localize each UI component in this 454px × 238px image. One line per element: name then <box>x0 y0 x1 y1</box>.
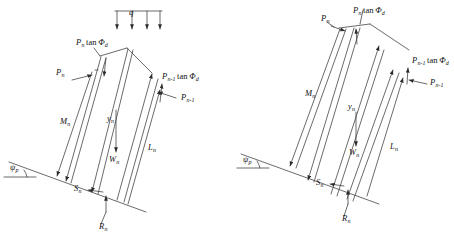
label-yn: yn <box>107 114 114 123</box>
slope-angle-arc <box>24 170 27 177</box>
force-line-7 <box>124 79 158 202</box>
label-Mn: Mn <box>305 89 315 98</box>
force-line-3 <box>71 58 106 183</box>
label-Mn: Mn <box>60 117 70 126</box>
label-Sn: Sn <box>316 178 323 187</box>
label-Pn-1: Pn-1 <box>181 93 194 102</box>
force-line-2 <box>296 29 346 168</box>
slip-surface-line <box>241 154 379 204</box>
force-line-8 <box>353 73 399 201</box>
Pn-1-arrow <box>409 80 427 84</box>
label-Rn: Rn <box>342 214 350 223</box>
slice-diagram-right <box>227 0 454 238</box>
label-Pn: Pn <box>56 68 64 77</box>
slice-top-edge <box>100 48 127 56</box>
force-line-2 <box>66 57 101 181</box>
force-line-5-up <box>331 46 379 194</box>
label-Pn-1-tan-phi: Pn-1 tan Φd <box>412 56 449 65</box>
label-q-surcharge: q <box>129 8 134 17</box>
diagram-panel-right: Pn tan Φd Pn Pn-1 tan Φd Pn-1 Mn yn Wn L… <box>227 0 454 238</box>
force-line-6 <box>337 50 384 196</box>
label-Sn: Sn <box>74 184 81 193</box>
label-Wn: Wn <box>109 155 119 164</box>
label-Pn-1: Pn-1 <box>430 78 443 87</box>
label-Wn: Wn <box>349 148 359 157</box>
slice-upper-right-edge <box>370 24 409 50</box>
slice-top-edge <box>339 24 370 28</box>
slope-angle-arc <box>257 161 260 168</box>
force-line-1 <box>290 29 340 166</box>
diagram-panel-left: Pn tan Φd Pn Pn-1 tan Φd Pn-1 Mn yn Wn L… <box>0 0 227 238</box>
label-Pn-tan-phi: Pn tan Φd <box>76 38 108 47</box>
Pn-tanphi-leader <box>94 48 100 56</box>
Sn-arrow <box>330 184 344 186</box>
label-Pn-tan-phi: Pn tan Φd <box>353 6 385 15</box>
figure-canvas: Pn tan Φd Pn Pn-1 tan Φd Pn-1 Mn yn Wn L… <box>0 0 454 238</box>
label-Pn: Pn <box>321 14 329 23</box>
Pn-arrow <box>72 75 92 80</box>
Pn-1-tan-phi-arrow <box>407 68 408 84</box>
label-Pn-1-tan-phi: Pn-1 tan Φd <box>162 72 199 81</box>
label-yn: yn <box>348 102 355 111</box>
force-line-5 <box>98 50 133 194</box>
force-line-9 <box>367 78 403 196</box>
label-psi-p: ψp <box>10 163 18 172</box>
surcharge-load-group <box>115 11 162 29</box>
label-psi-p: ψp <box>243 155 251 164</box>
label-Ln: Ln <box>390 142 398 151</box>
label-Ln: Ln <box>148 143 156 152</box>
label-Rn: Rn <box>99 222 107 231</box>
